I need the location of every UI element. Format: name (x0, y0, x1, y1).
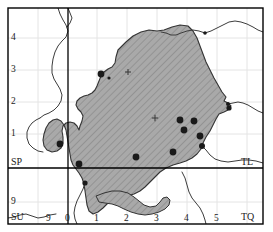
grid-ref-su: SU (11, 212, 24, 222)
x-tick-4: 4 (184, 214, 189, 224)
record-dot (107, 76, 110, 79)
y-tick-4: 4 (11, 33, 16, 43)
record-dot (226, 102, 230, 106)
y-tick-3: 3 (11, 65, 16, 75)
x-tick-9-su: 9 (46, 214, 51, 224)
record-dot (203, 31, 207, 35)
record-dot (57, 141, 64, 148)
x-tick-3: 3 (154, 214, 159, 224)
record-dot (199, 143, 205, 149)
record-dot (177, 117, 184, 124)
y-tick-9: 9 (11, 197, 16, 207)
record-dot (133, 154, 140, 161)
grid-ref-tq: TQ (241, 212, 254, 222)
distribution-map-figure: 4 3 2 1 9 0 1 2 3 4 5 9 SP SU TL TQ (0, 0, 273, 232)
record-dot (98, 71, 105, 78)
y-tick-2: 2 (11, 97, 16, 107)
record-dot (191, 118, 198, 125)
record-dot (76, 161, 83, 168)
grid-ref-tl: TL (241, 157, 253, 167)
record-dot (82, 180, 87, 185)
x-tick-2: 2 (124, 214, 129, 224)
record-dot (170, 149, 177, 156)
y-tick-1: 1 (11, 129, 16, 139)
record-dot (197, 133, 204, 140)
record-dot (226, 105, 231, 110)
x-tick-1: 1 (94, 214, 99, 224)
x-tick-0: 0 (65, 214, 70, 224)
map-canvas (0, 0, 273, 232)
grid-ref-sp: SP (11, 157, 22, 167)
record-dot (181, 127, 188, 134)
x-tick-5: 5 (214, 214, 219, 224)
